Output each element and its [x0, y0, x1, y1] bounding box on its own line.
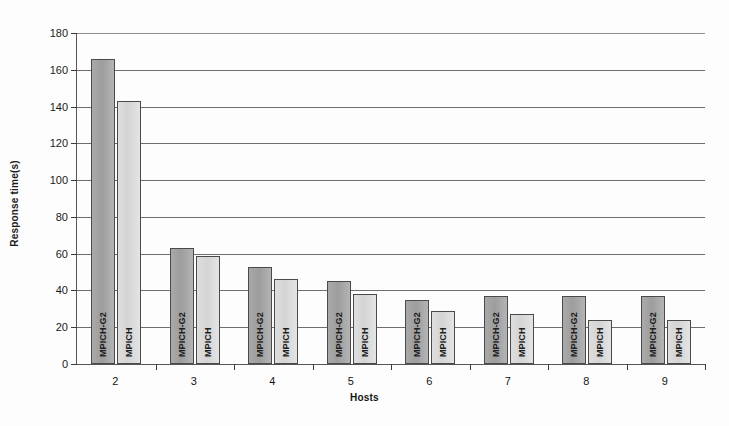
bar-mpich-hosts-8: MPICH: [588, 320, 612, 364]
x-tick-label: 3: [191, 375, 197, 387]
y-tick-mark: [71, 364, 77, 365]
x-tick-mark: [391, 364, 392, 370]
plot-area: 020406080100120140160180 MPICH-G2MPICHMP…: [76, 33, 705, 365]
bar-mpich-hosts-3: MPICH: [196, 256, 220, 364]
bar-mpich-hosts-9: MPICH: [667, 320, 691, 364]
x-tick-label: 2: [112, 375, 118, 387]
x-tick-mark: [548, 364, 549, 370]
x-tick-mark: [470, 364, 471, 370]
x-tick-mark: [156, 364, 157, 370]
bar-mpich-g2-hosts-9: MPICH-G2: [641, 296, 665, 364]
bar-mpich-g2-hosts-3: MPICH-G2: [170, 248, 194, 364]
y-tick-label: 60: [56, 248, 68, 260]
bar-mpich-g2-hosts-4: MPICH-G2: [248, 267, 272, 364]
x-axis-title: Hosts: [0, 392, 729, 403]
bar-mpich-hosts-6: MPICH: [431, 311, 455, 364]
x-tick-label: 7: [505, 375, 511, 387]
bar-label: MPICH-G2: [648, 312, 658, 357]
bar-chart-figure: Response time(s) 02040608010012014016018…: [0, 0, 729, 426]
bar-label: MPICH: [203, 328, 213, 358]
bar-label: MPICH-G2: [569, 312, 579, 357]
bar-group: MPICH-G2MPICH: [170, 33, 220, 364]
bar-label: MPICH-G2: [177, 312, 187, 357]
bar-mpich-g2-hosts-5: MPICH-G2: [327, 281, 351, 364]
x-tick-mark: [627, 364, 628, 370]
x-tick-label: 5: [348, 375, 354, 387]
x-tick-mark: [313, 364, 314, 370]
y-tick-label: 180: [50, 27, 68, 39]
bar-label: MPICH-G2: [255, 312, 265, 357]
bar-mpich-hosts-7: MPICH: [510, 314, 534, 364]
bar-label: MPICH: [360, 328, 370, 358]
bar-group: MPICH-G2MPICH: [91, 33, 141, 364]
bar-label: MPICH: [517, 328, 527, 358]
y-tick-label: 80: [56, 211, 68, 223]
bar-label: MPICH: [595, 328, 605, 358]
bar-mpich-g2-hosts-7: MPICH-G2: [484, 296, 508, 364]
x-tick-mark: [705, 364, 706, 370]
bar-group: MPICH-G2MPICH: [327, 33, 377, 364]
x-tick-mark: [234, 364, 235, 370]
y-tick-label: 100: [50, 174, 68, 186]
bar-group: MPICH-G2MPICH: [562, 33, 612, 364]
x-tick-label: 9: [662, 375, 668, 387]
bar-mpich-g2-hosts-8: MPICH-G2: [562, 296, 586, 364]
bar-label: MPICH-G2: [491, 312, 501, 357]
bar-label: MPICH: [438, 328, 448, 358]
bar-label: MPICH-G2: [98, 312, 108, 357]
bar-group: MPICH-G2MPICH: [484, 33, 534, 364]
bar-group: MPICH-G2MPICH: [641, 33, 691, 364]
y-tick-label: 40: [56, 284, 68, 296]
bar-mpich-g2-hosts-2: MPICH-G2: [91, 59, 115, 364]
y-axis-title: Response time(s): [9, 124, 20, 284]
bar-mpich-hosts-4: MPICH: [274, 279, 298, 364]
bar-label: MPICH: [674, 328, 684, 358]
x-tick-label: 8: [583, 375, 589, 387]
x-tick-label: 6: [426, 375, 432, 387]
y-tick-label: 160: [50, 64, 68, 76]
bars-layer: MPICH-G2MPICHMPICH-G2MPICHMPICH-G2MPICHM…: [77, 33, 705, 364]
bar-mpich-g2-hosts-6: MPICH-G2: [405, 300, 429, 364]
bar-label: MPICH-G2: [412, 312, 422, 357]
bar-group: MPICH-G2MPICH: [405, 33, 455, 364]
bar-mpich-hosts-2: MPICH: [117, 101, 141, 364]
y-tick-label: 20: [56, 321, 68, 333]
y-tick-label: 0: [62, 358, 68, 370]
y-tick-label: 120: [50, 137, 68, 149]
bar-label: MPICH: [124, 328, 134, 358]
bar-label: MPICH-G2: [334, 312, 344, 357]
bar-mpich-hosts-5: MPICH: [353, 294, 377, 364]
y-tick-label: 140: [50, 101, 68, 113]
x-tick-label: 4: [269, 375, 275, 387]
bar-group: MPICH-G2MPICH: [248, 33, 298, 364]
bar-label: MPICH: [281, 328, 291, 358]
